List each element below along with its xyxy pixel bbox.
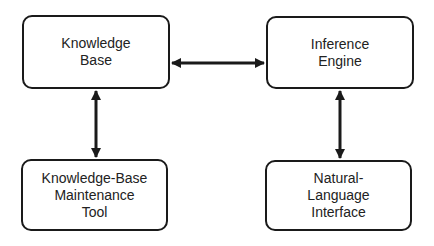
node-label-line: Base [80,52,112,69]
node-label-line: Engine [318,53,362,70]
node-label-line: Interface [311,204,365,221]
node-inference-engine: Inference Engine [266,16,414,89]
node-nl-interface: Natural- Language Interface [265,160,412,231]
node-label-line: Maintenance [54,187,134,204]
node-knowledge-base: Knowledge Base [22,15,170,89]
node-label-line: Inference [311,36,369,53]
node-label-line: Knowledge-Base [42,170,148,187]
node-label-line: Language [307,187,369,204]
node-kb-maintenance-tool: Knowledge-Base Maintenance Tool [21,159,168,231]
node-label-line: Knowledge [61,35,130,52]
node-label-line: Tool [82,204,108,221]
node-label-line: Natural- [314,170,364,187]
